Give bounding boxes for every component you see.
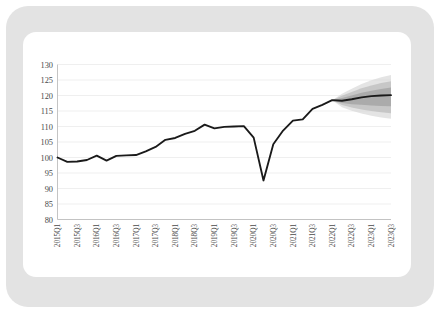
x-axis-tick-labels: 2015Q12015Q32016Q12016Q32017Q12017Q32018… xyxy=(54,224,396,248)
x-tick-label: 2021Q3 xyxy=(309,224,317,248)
x-tick-label: 2017Q1 xyxy=(133,224,141,248)
x-tick-label: 2022Q1 xyxy=(329,224,337,248)
x-tick-label: 2020Q1 xyxy=(250,224,258,248)
y-tick-label: 90 xyxy=(45,185,53,194)
y-tick-label: 95 xyxy=(45,169,53,178)
x-tick-label: 2016Q1 xyxy=(93,224,101,248)
y-tick-label: 120 xyxy=(40,92,53,101)
y-tick-label: 80 xyxy=(45,216,53,225)
y-tick-label: 110 xyxy=(41,123,53,132)
x-tick-label: 2022Q3 xyxy=(348,224,356,248)
y-tick-label: 105 xyxy=(40,138,53,147)
x-tick-label: 2017Q3 xyxy=(152,224,160,248)
x-tick-label: 2020Q3 xyxy=(270,224,278,248)
figure-page: 13012512011511010510095908580 2015Q12015… xyxy=(0,0,440,313)
x-tick-label: 2018Q1 xyxy=(172,224,180,248)
x-tick-label: 2021Q1 xyxy=(290,224,298,248)
x-tick-label: 2015Q1 xyxy=(54,224,62,248)
y-axis-tick-labels: 13012512011511010510095908580 xyxy=(40,61,53,225)
x-tick-label: 2019Q3 xyxy=(231,224,239,248)
y-tick-label: 100 xyxy=(40,154,53,163)
fan-chart: 13012512011511010510095908580 2015Q12015… xyxy=(0,0,440,313)
x-tick-label: 2016Q3 xyxy=(113,224,121,248)
chart-canvas: 13012512011511010510095908580 2015Q12015… xyxy=(0,0,440,313)
x-tick-label: 2023Q3 xyxy=(388,224,396,248)
x-tick-label: 2015Q3 xyxy=(74,224,82,248)
y-tick-label: 130 xyxy=(40,61,53,70)
x-tick-label: 2019Q1 xyxy=(211,224,219,248)
index-line-series xyxy=(58,95,392,180)
x-tick-label: 2018Q3 xyxy=(191,224,199,248)
index-line xyxy=(58,95,392,180)
grid-lines xyxy=(58,65,392,220)
y-tick-label: 125 xyxy=(40,76,53,85)
y-tick-label: 115 xyxy=(41,107,53,116)
y-tick-label: 85 xyxy=(45,200,53,209)
x-tick-label: 2023Q1 xyxy=(368,224,376,248)
